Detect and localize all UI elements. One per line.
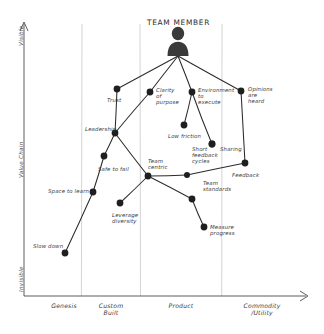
node-label-teamcentric: Team centric xyxy=(148,158,168,170)
edge-teamcentric-leverage xyxy=(120,176,148,203)
map-node-lowfriction[interactable] xyxy=(181,122,188,129)
node-label-teamstd: Team standards xyxy=(203,180,231,192)
edge-environment-lowfriction xyxy=(184,92,192,125)
x-axis-tick-3: Commodity /Utility xyxy=(228,302,296,317)
node-label-slowdown: Slow down xyxy=(33,243,63,249)
edge-safetofail-spacetolearn xyxy=(93,156,104,192)
map-node-spacetolearn[interactable] xyxy=(90,189,97,196)
map-title: TEAM MEMBER xyxy=(147,18,210,27)
edge-spacetolearn-slowdown xyxy=(65,192,93,253)
edge-anchor-environment xyxy=(178,56,192,92)
gridline-0 xyxy=(81,24,82,296)
map-node-trust[interactable] xyxy=(114,86,121,93)
edge-teamcentric-fbcycles xyxy=(148,175,187,176)
x-axis-tick-2: Product xyxy=(147,302,215,309)
map-node-teamstd[interactable] xyxy=(189,196,196,203)
map-node-feedback[interactable] xyxy=(242,160,249,167)
map-node-slowdown[interactable] xyxy=(62,250,69,257)
map-node-clarity[interactable] xyxy=(147,89,154,96)
y-axis-bottom-label: Invisible xyxy=(18,266,24,292)
edge-anchor-trust xyxy=(117,56,178,89)
edge-teamstd-measure xyxy=(192,199,204,227)
gridline-1 xyxy=(140,24,141,296)
map-node-fbcycles[interactable] xyxy=(184,172,190,178)
node-label-opinions: Opinions are heard xyxy=(248,86,273,105)
y-axis-top-label: Visible xyxy=(18,26,24,47)
map-node-opinions[interactable] xyxy=(238,88,245,95)
edge-leadership-safetofail xyxy=(104,133,115,156)
map-node-environment[interactable] xyxy=(189,89,196,96)
node-label-feedback: Feedback xyxy=(232,172,259,178)
node-label-leadership: Leadership xyxy=(85,126,116,132)
edge-anchor-opinions xyxy=(178,56,241,91)
node-label-shortcycles: Short feedback cycles xyxy=(192,146,218,165)
node-label-lowfriction: Low friction xyxy=(168,133,201,139)
node-label-clarity: Clarity of purpose xyxy=(156,87,179,106)
edge-teamcentric-teamstd xyxy=(148,176,192,199)
map-node-teamcentric[interactable] xyxy=(145,173,152,180)
node-label-spacetolearn: Space to learn xyxy=(48,188,89,194)
node-label-measure: Measure progress xyxy=(210,224,235,236)
node-label-safetofail: Safe to fail xyxy=(98,166,129,172)
node-label-leverage: Leverage diversity xyxy=(112,212,138,224)
y-axis-mid-label: Value Chain xyxy=(18,142,24,179)
map-node-measure[interactable] xyxy=(201,224,208,231)
map-node-safetofail[interactable] xyxy=(101,153,108,160)
node-label-environment: Environment to execute xyxy=(198,87,234,106)
x-axis-tick-1: Custom Built xyxy=(77,302,145,317)
map-node-leverage[interactable] xyxy=(117,200,124,207)
person-icon xyxy=(168,27,189,56)
node-label-trust: Trust xyxy=(107,97,121,103)
node-label-sharing: Sharing xyxy=(220,146,242,152)
